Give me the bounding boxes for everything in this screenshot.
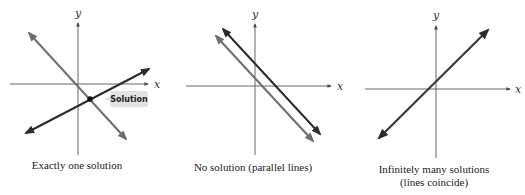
lower-parallel-line	[216, 36, 313, 141]
x-axis-label: x	[337, 80, 344, 93]
solution-tag-label: Solution	[110, 95, 148, 104]
y-axis-label: y	[251, 8, 259, 21]
coincident-line	[379, 30, 488, 138]
panel-no-solution: x y	[186, 8, 344, 155]
caption-infinite-solutions: Infinitely many solutions (lines coincid…	[369, 163, 499, 189]
caption-one-solution: Exactly one solution	[17, 159, 137, 172]
caption-line: Infinitely many solutions	[369, 163, 499, 176]
x-axis-label: x	[154, 78, 161, 91]
solution-point	[87, 96, 93, 102]
caption-line: No solution (parallel lines)	[183, 161, 323, 174]
caption-line: (lines coincide)	[369, 176, 499, 189]
panel-infinite-solutions: x y	[365, 9, 522, 158]
solution-tag: Solution	[104, 91, 148, 107]
y-axis-label: y	[432, 9, 440, 22]
x-axis-label: x	[515, 83, 522, 96]
caption-line: Exactly one solution	[17, 159, 137, 172]
systems-of-equations-diagram: x y Solution x y x y	[0, 0, 525, 195]
panel-one-solution: x y Solution	[10, 7, 161, 155]
caption-no-solution: No solution (parallel lines)	[183, 161, 323, 174]
y-axis-label: y	[74, 7, 82, 20]
upper-parallel-line	[223, 29, 320, 134]
